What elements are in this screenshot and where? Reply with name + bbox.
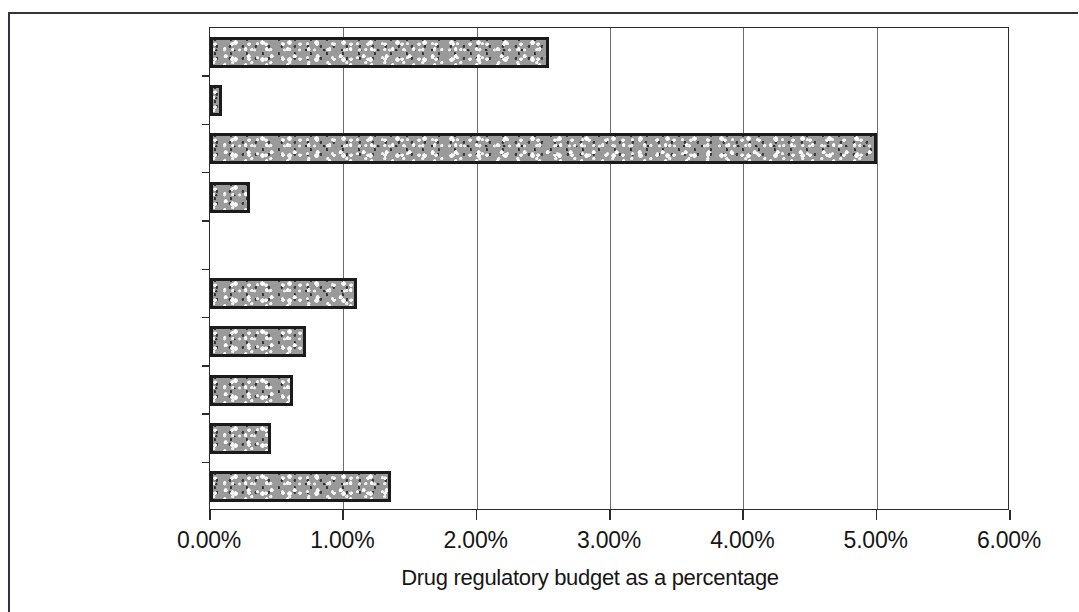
x-axis-title: Drug regulatory budget as a percentage bbox=[0, 565, 1058, 591]
bar-row bbox=[210, 326, 1008, 357]
y-axis-tick bbox=[202, 220, 209, 222]
x-axis-tick-label: 1.00% bbox=[272, 527, 412, 554]
plot-area bbox=[209, 27, 1009, 510]
y-axis-tick bbox=[202, 172, 209, 174]
bar-estonia bbox=[210, 326, 306, 357]
bar-row bbox=[210, 278, 1008, 309]
bar-cuba bbox=[210, 423, 271, 454]
bars-group bbox=[210, 28, 1008, 509]
bar-row bbox=[210, 37, 1008, 68]
bar-row bbox=[210, 375, 1008, 406]
y-axis-tick bbox=[202, 269, 209, 271]
bar-row bbox=[210, 471, 1008, 502]
y-axis-tick bbox=[202, 75, 209, 77]
bar-row bbox=[210, 182, 1008, 213]
x-axis-tick bbox=[476, 510, 478, 520]
bar-zimbabwe bbox=[210, 37, 549, 68]
bar-row bbox=[210, 230, 1008, 261]
x-axis-tick-label: 0.00% bbox=[139, 527, 279, 554]
x-axis-tick bbox=[876, 510, 878, 520]
x-axis-tick-label: 4.00% bbox=[672, 527, 812, 554]
bar-cyprus bbox=[210, 375, 293, 406]
y-axis-tick bbox=[202, 317, 209, 319]
y-axis-tick bbox=[202, 413, 209, 415]
x-axis-title-text: Drug regulatory budget as a percentage bbox=[401, 565, 779, 591]
bar-row bbox=[210, 423, 1008, 454]
y-axis-tick bbox=[202, 462, 209, 464]
bar-tunisia bbox=[210, 182, 250, 213]
x-axis-tick bbox=[342, 510, 344, 520]
x-axis-tick bbox=[209, 510, 211, 520]
x-axis-tick-label: 5.00% bbox=[806, 527, 946, 554]
bar-malaysia bbox=[210, 278, 357, 309]
x-axis-tick bbox=[742, 510, 744, 520]
x-axis-tick-label: 2.00% bbox=[406, 527, 546, 554]
x-axis-tick-label: 6.00% bbox=[939, 527, 1079, 554]
x-axis-tick-label: 3.00% bbox=[539, 527, 679, 554]
bar-row bbox=[210, 133, 1008, 164]
bar-row bbox=[210, 85, 1008, 116]
x-axis-tick bbox=[609, 510, 611, 520]
y-axis-tick bbox=[202, 365, 209, 367]
bar-uganda bbox=[210, 133, 877, 164]
x-axis-tick bbox=[1009, 510, 1011, 520]
bar-venezuela bbox=[210, 85, 222, 116]
bar-australia bbox=[210, 471, 391, 502]
y-axis-tick bbox=[202, 124, 209, 126]
